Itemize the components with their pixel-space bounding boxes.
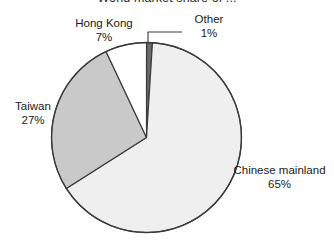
pie-label-chinese-mainland: Chinese mainland 65%: [227, 164, 332, 191]
pie-label-chinese-mainland-name: Chinese mainland: [233, 164, 325, 176]
pie-label-other-percent: 1%: [181, 27, 237, 41]
pie-chart-figure: World market share of ... Hong Kong 7% O…: [0, 0, 334, 247]
pie-label-other: Other 1%: [181, 13, 237, 40]
pie-label-taiwan-name: Taiwan: [15, 100, 51, 112]
pie-label-other-name: Other: [195, 13, 224, 25]
pie-slices-group: [52, 43, 242, 233]
pie-label-chinese-mainland-percent: 65%: [227, 178, 332, 192]
pie-label-hong-kong-percent: 7%: [62, 31, 146, 45]
pie-label-taiwan: Taiwan 27%: [2, 100, 64, 127]
pie-label-hong-kong: Hong Kong 7%: [62, 17, 146, 44]
pie-label-hong-kong-name: Hong Kong: [75, 17, 133, 29]
pie-label-taiwan-percent: 27%: [2, 114, 64, 128]
